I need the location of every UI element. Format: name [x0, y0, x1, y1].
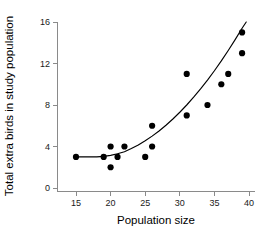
- x-tick-label: 30: [175, 198, 185, 208]
- data-points-group: [73, 29, 245, 170]
- data-point: [184, 112, 190, 118]
- data-point: [114, 154, 120, 160]
- data-point: [149, 143, 155, 149]
- data-point: [239, 29, 245, 35]
- data-point: [108, 164, 114, 170]
- x-tick-label: 20: [106, 198, 116, 208]
- data-point: [239, 50, 245, 56]
- data-point: [142, 154, 148, 160]
- data-point: [121, 143, 127, 149]
- y-axis-ticks: 0481216: [40, 17, 58, 193]
- axes-group: [58, 22, 256, 192]
- data-point: [218, 81, 224, 87]
- x-axis-title: Population size: [117, 214, 195, 226]
- x-tick-label: 40: [244, 198, 254, 208]
- data-point: [73, 154, 79, 160]
- data-point: [149, 123, 155, 129]
- data-point: [101, 154, 107, 160]
- data-point: [225, 71, 231, 77]
- y-tick-label: 8: [45, 100, 50, 110]
- x-tick-label: 25: [140, 198, 150, 208]
- data-point: [184, 71, 190, 77]
- y-tick-label: 16: [40, 17, 50, 27]
- y-tick-label: 0: [45, 183, 50, 193]
- data-point: [108, 143, 114, 149]
- fit-curve-group: [76, 22, 246, 157]
- x-tick-label: 15: [71, 198, 81, 208]
- x-axis-ticks: 152025303540: [71, 192, 254, 209]
- x-tick-label: 35: [209, 198, 219, 208]
- plot-canvas: 0481216 152025303540 Population size Tot…: [0, 0, 279, 236]
- scatter-plot-figure: 0481216 152025303540 Population size Tot…: [0, 0, 279, 236]
- data-point: [204, 102, 210, 108]
- y-tick-label: 12: [40, 59, 50, 69]
- y-tick-label: 4: [45, 142, 50, 152]
- y-axis-title: Total extra birds in study population: [3, 16, 15, 196]
- fit-curve: [76, 22, 246, 157]
